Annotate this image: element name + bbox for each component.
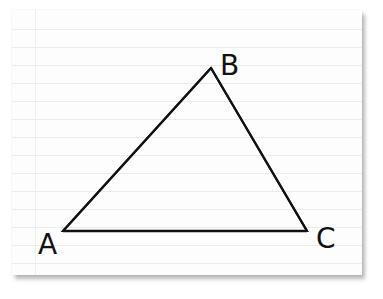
vertex-label-c: C: [316, 222, 336, 255]
vertex-label-a: A: [38, 228, 57, 261]
side-bc: [211, 68, 307, 231]
side-ab: [63, 68, 211, 231]
triangle-abc: [63, 68, 307, 231]
vertex-label-b: B: [220, 49, 239, 82]
triangle-figure: A B C: [0, 0, 383, 299]
diagram-stage: A B C: [0, 0, 383, 299]
